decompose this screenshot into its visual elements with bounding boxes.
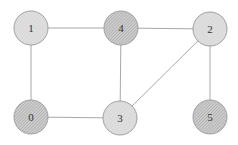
node-label: 5 bbox=[207, 111, 213, 123]
node-label: 1 bbox=[28, 22, 34, 34]
node-5[interactable]: 5 bbox=[193, 100, 227, 134]
graph-diagram: 142035 bbox=[0, 0, 238, 145]
node-label: 4 bbox=[118, 22, 124, 34]
edge-2-3 bbox=[120, 29, 210, 118]
node-0[interactable]: 0 bbox=[14, 100, 48, 134]
node-3[interactable]: 3 bbox=[103, 101, 137, 135]
node-label: 3 bbox=[117, 112, 123, 124]
node-label: 0 bbox=[28, 111, 34, 123]
node-1[interactable]: 1 bbox=[14, 11, 48, 45]
node-label: 2 bbox=[207, 23, 213, 35]
node-4[interactable]: 4 bbox=[104, 11, 138, 45]
node-2[interactable]: 2 bbox=[193, 12, 227, 46]
